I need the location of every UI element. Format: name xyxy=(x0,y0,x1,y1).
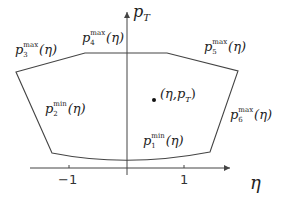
tick-label-minus-1: −1 xyxy=(58,172,77,187)
label-base: p xyxy=(143,133,151,148)
label-arg: (η) xyxy=(39,42,57,57)
label-p1-min: pmin1(η) xyxy=(143,134,184,148)
label-sup: max xyxy=(90,30,105,36)
sample-point xyxy=(152,98,156,102)
label-sub: 4 xyxy=(90,40,105,46)
label-p6-max: pmax6(η) xyxy=(230,108,272,122)
y-label-sub: T xyxy=(143,12,150,23)
label-sup: max xyxy=(238,107,253,113)
label-p3-max: pmax3(η) xyxy=(15,43,57,57)
label-base: p xyxy=(82,30,90,45)
label-sub: 3 xyxy=(23,52,38,58)
label-arg: (η) xyxy=(106,30,124,45)
y-axis-label: pT xyxy=(133,2,150,23)
label-sub: 5 xyxy=(212,49,227,55)
label-p2-min: pmin2(η) xyxy=(45,102,86,116)
label-sup: min xyxy=(53,101,66,107)
label-sup: max xyxy=(23,42,38,48)
label-arg: (η) xyxy=(228,39,246,54)
label-sup: min xyxy=(151,133,164,139)
x-axis-label: η xyxy=(250,172,261,193)
point-label: (η,pT) xyxy=(160,86,196,104)
point-close: ) xyxy=(191,86,196,101)
label-p4-max: pmax4(η) xyxy=(82,31,124,45)
label-arg: (η) xyxy=(166,133,184,148)
label-base: p xyxy=(45,101,53,116)
tick-label-1: 1 xyxy=(180,172,188,187)
label-base: p xyxy=(15,42,23,57)
point-open: (η, xyxy=(160,86,177,101)
label-arg: (η) xyxy=(68,101,86,116)
label-sup: max xyxy=(212,39,227,45)
label-sub: 2 xyxy=(53,111,66,117)
y-label-base: p xyxy=(133,2,143,21)
label-sub: 6 xyxy=(238,117,253,123)
label-base: p xyxy=(230,107,238,122)
phase-space-diagram xyxy=(0,0,282,197)
label-sub: 1 xyxy=(151,143,164,149)
label-p5-max: pmax5(η) xyxy=(204,40,246,54)
label-base: p xyxy=(204,39,212,54)
label-arg: (η) xyxy=(254,107,272,122)
